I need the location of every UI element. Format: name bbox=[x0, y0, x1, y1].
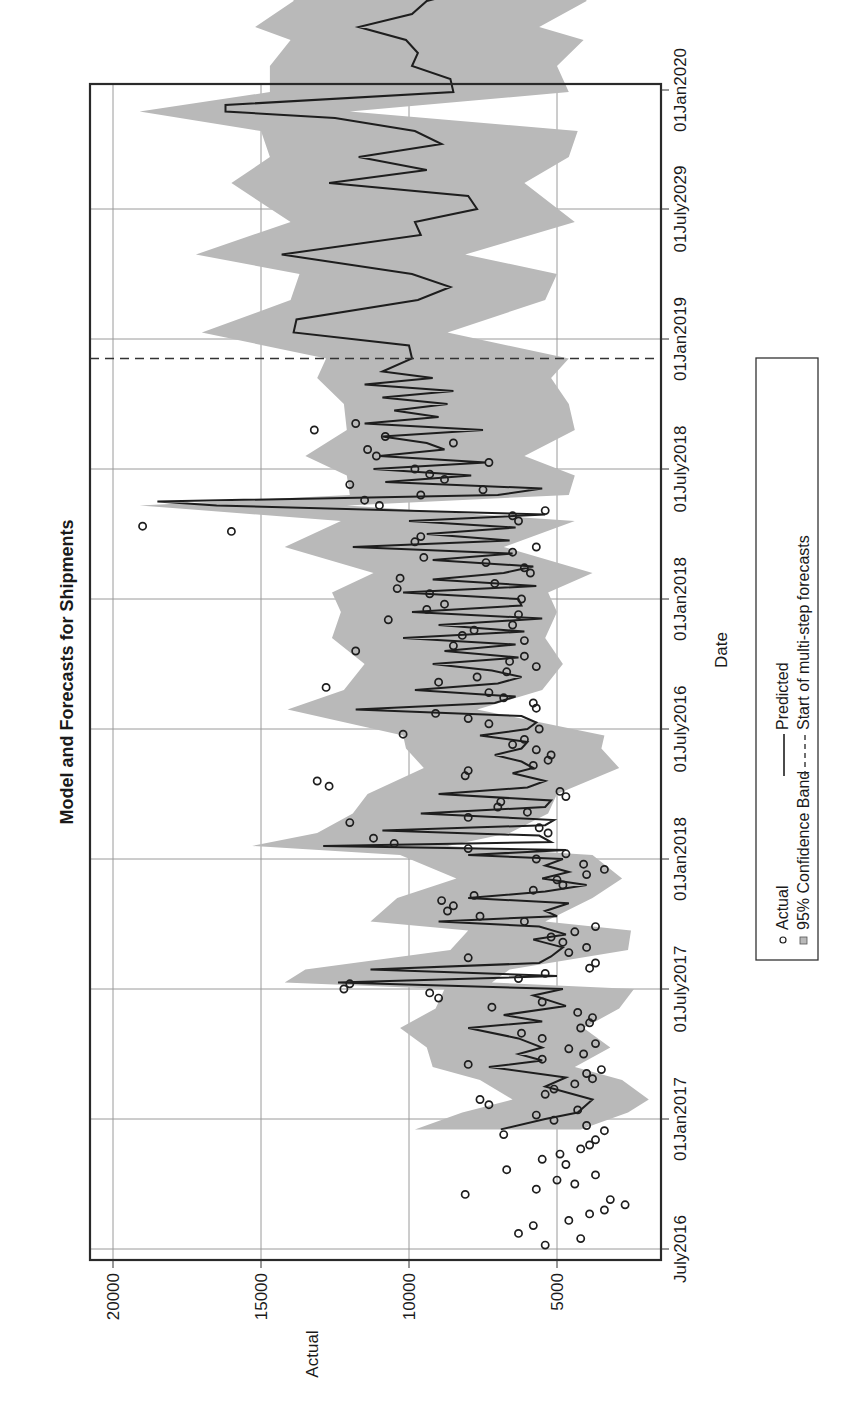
legend-band-marker bbox=[800, 937, 807, 944]
chart-title: Model and Forecasts for Shipments bbox=[57, 519, 77, 824]
actual-point bbox=[592, 959, 599, 966]
date-tick-label: 01Jan2018 bbox=[671, 557, 690, 641]
actual-point bbox=[622, 1201, 629, 1208]
confidence-band bbox=[140, 0, 649, 1129]
value-axis-ticks: 5000100001500020000 bbox=[104, 1260, 567, 1320]
forecast-chart: July201601Jan201701July201701Jan201801Ju… bbox=[0, 0, 841, 1425]
legend: Actual 95% Confidence Band Predicted Sta… bbox=[756, 358, 818, 960]
actual-point bbox=[426, 989, 433, 996]
legend-predicted-label: Predicted bbox=[774, 662, 791, 730]
actual-point bbox=[542, 1242, 549, 1249]
actual-point bbox=[592, 1171, 599, 1178]
actual-point bbox=[545, 829, 552, 836]
actual-point bbox=[601, 1206, 608, 1213]
actual-point bbox=[592, 1136, 599, 1143]
date-tick-label: 01Jan2019 bbox=[671, 297, 690, 381]
date-tick-label: 01Jan2020 bbox=[671, 48, 690, 132]
confidence-band-area bbox=[140, 0, 649, 1129]
actual-point bbox=[598, 1066, 605, 1073]
value-tick-label: 10000 bbox=[400, 1273, 419, 1320]
value-tick-label: 5000 bbox=[548, 1273, 567, 1311]
date-tick-label: 01Jan2017 bbox=[671, 1077, 690, 1161]
actual-point bbox=[562, 1161, 569, 1168]
value-tick-label: 15000 bbox=[252, 1273, 271, 1320]
actual-point bbox=[586, 1210, 593, 1217]
x-axis-title: Date bbox=[712, 632, 731, 668]
actual-point bbox=[565, 1217, 572, 1224]
actual-point bbox=[311, 426, 318, 433]
actual-point bbox=[500, 1131, 507, 1138]
date-axis-ticks: July201601Jan201701July201701Jan201801Ju… bbox=[661, 48, 690, 1283]
actual-point bbox=[515, 975, 522, 982]
y-axis-title: Actual bbox=[303, 1330, 322, 1377]
actual-point bbox=[314, 777, 321, 784]
actual-point bbox=[571, 1180, 578, 1187]
actual-point bbox=[462, 1191, 469, 1198]
actual-point bbox=[228, 528, 235, 535]
actual-point bbox=[530, 1222, 537, 1229]
date-tick-label: 01July2029 bbox=[671, 166, 690, 253]
actual-point bbox=[515, 1230, 522, 1237]
actual-point bbox=[533, 543, 540, 550]
actual-point bbox=[323, 684, 330, 691]
actual-point bbox=[542, 507, 549, 514]
actual-point bbox=[503, 1166, 510, 1173]
legend-actual-label: Actual bbox=[774, 886, 791, 930]
actual-point bbox=[533, 1186, 540, 1193]
legend-band-label: 95% Confidence Band bbox=[795, 771, 812, 930]
actual-point bbox=[326, 783, 333, 790]
date-tick-label: 01July2018 bbox=[671, 426, 690, 513]
actual-point bbox=[577, 1145, 584, 1152]
date-tick-label: 01July2016 bbox=[671, 686, 690, 773]
actual-point bbox=[539, 1156, 546, 1163]
actual-point bbox=[476, 1096, 483, 1103]
actual-point bbox=[577, 1235, 584, 1242]
legend-forecast-start-label: Start of multi-step forecasts bbox=[795, 535, 812, 730]
value-tick-label: 20000 bbox=[104, 1273, 123, 1320]
date-tick-label: July2016 bbox=[671, 1215, 690, 1283]
actual-point bbox=[607, 1196, 614, 1203]
actual-point bbox=[601, 1127, 608, 1134]
date-tick-label: 01July2017 bbox=[671, 946, 690, 1033]
actual-point bbox=[139, 523, 146, 530]
date-tick-label: 01Jan2018 bbox=[671, 817, 690, 901]
